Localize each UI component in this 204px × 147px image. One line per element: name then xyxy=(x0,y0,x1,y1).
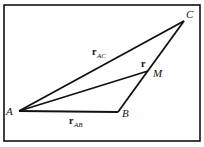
segment-am xyxy=(19,71,148,111)
vector-r-ab-subscript: AB xyxy=(73,121,83,129)
point-c-label: C xyxy=(186,8,194,20)
frame-border xyxy=(4,5,200,141)
segment-bc xyxy=(118,21,184,112)
point-m-label: M xyxy=(152,67,163,79)
segment-ab xyxy=(19,111,118,112)
vector-r-ac-subscript: AC xyxy=(96,52,106,60)
point-b-label: B xyxy=(122,107,129,119)
vector-diagram: A B C M r AC r AB r xyxy=(0,0,204,147)
point-a-label: A xyxy=(5,105,13,117)
segment-ac xyxy=(19,21,184,111)
vector-r-label: r xyxy=(141,58,146,69)
